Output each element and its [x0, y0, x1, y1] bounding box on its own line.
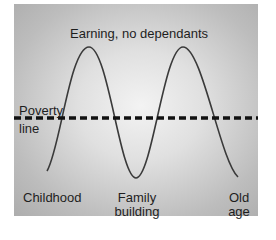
stage-label-old-age-line1: Old [224, 190, 254, 205]
poverty-line-label-line1: Poverty [19, 103, 63, 118]
stage-label-family-building-line2: building [114, 204, 160, 219]
income-curve [47, 47, 238, 178]
earning-no-dependants-label: Earning, no dependants [70, 26, 208, 41]
stage-label-old-age-line2: age [224, 204, 254, 219]
poverty-line-label-line2: line [19, 121, 39, 136]
stage-label-childhood: Childhood [23, 190, 82, 205]
stage-label-family-building-line1: Family [114, 190, 160, 205]
